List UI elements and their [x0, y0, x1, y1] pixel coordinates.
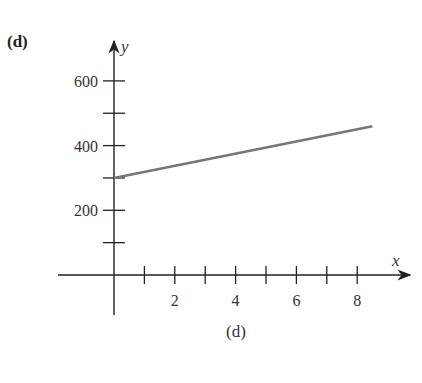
data-line: [114, 126, 372, 178]
x-tick-label: 4: [232, 292, 240, 309]
x-axis-label: x: [391, 251, 400, 270]
x-tick-label: 6: [292, 292, 300, 309]
x-tick-label: 8: [353, 292, 361, 309]
figure-caption: (d): [0, 322, 422, 342]
y-axis-label: y: [119, 37, 129, 56]
y-tick-label: 400: [74, 138, 98, 155]
y-tick-label: 200: [74, 202, 98, 219]
y-tick-label: 600: [74, 73, 98, 90]
x-tick-label: 2: [171, 292, 179, 309]
